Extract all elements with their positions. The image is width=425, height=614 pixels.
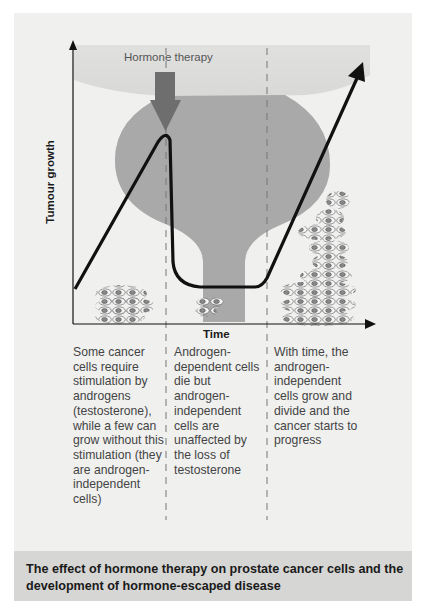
- figure-caption: The effect of hormone therapy on prostat…: [26, 561, 406, 595]
- hormone-therapy-label: Hormone therapy: [124, 51, 213, 63]
- cell-cluster-initial: [95, 285, 155, 324]
- phase-2-description: Androgen-dependent cells die but androge…: [174, 345, 264, 477]
- x-axis-arrow-icon: [365, 319, 376, 329]
- diagram-graphic: [0, 0, 425, 614]
- y-axis-label: Tumour growth: [44, 127, 56, 237]
- phase-3-description: With time, the androgen-independent cell…: [274, 345, 364, 448]
- x-axis-label: Time: [203, 328, 230, 340]
- phase-1-description: Some cancer cells require stimulation by…: [73, 345, 168, 507]
